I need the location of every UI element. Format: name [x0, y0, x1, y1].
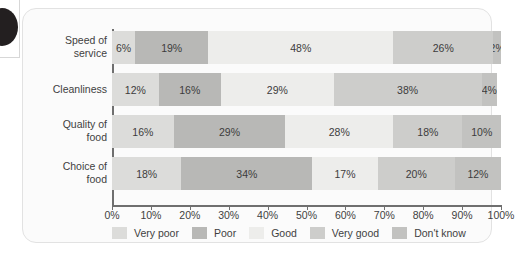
category-label-line: food [41, 131, 107, 144]
legend-item[interactable]: Very poor [112, 227, 179, 239]
bar-segment-label: 20% [406, 168, 427, 180]
bar-segment[interactable]: 48% [208, 31, 393, 64]
bar-segment-label: 29% [267, 84, 288, 96]
bar-segment-label: 4% [482, 84, 497, 96]
category-label-line: Cleanliness [41, 83, 107, 96]
category-label: Speed ofservice [41, 34, 107, 59]
bar-segment[interactable]: 17% [312, 157, 377, 190]
bar-segment[interactable]: 29% [174, 115, 286, 148]
legend-label: Very poor [134, 227, 179, 239]
bar-segment[interactable]: 28% [285, 115, 393, 148]
bar-segment-label: 12% [125, 84, 146, 96]
bar-segment-label: 16% [179, 84, 200, 96]
x-axis-tick-label: 80% [413, 209, 434, 221]
x-axis-tick-label: 70% [374, 209, 395, 221]
bar-segment-label: 2% [493, 42, 501, 54]
bar-segment-label: 29% [219, 126, 240, 138]
bar-segment[interactable]: 4% [482, 73, 498, 106]
bar-segment[interactable]: 38% [334, 73, 482, 106]
bar-segment[interactable]: 12% [112, 73, 159, 106]
bar-row: 18%34%17%20%12% [112, 157, 501, 190]
x-axis-tick-label: 50% [296, 209, 317, 221]
bar-segment-label: 38% [397, 84, 418, 96]
bar-segment[interactable]: 16% [159, 73, 221, 106]
chart-legend: Very poorPoorGoodVery goodDon't know [112, 227, 479, 239]
bar-segment[interactable]: 19% [135, 31, 208, 64]
bar-segment-label: 10% [471, 126, 492, 138]
bar-segment[interactable]: 26% [393, 31, 493, 64]
bar-segment-label: 26% [433, 42, 454, 54]
x-axis-tick-label: 10% [140, 209, 161, 221]
legend-label: Don't know [414, 227, 466, 239]
bar-segment-label: 18% [417, 126, 438, 138]
bar-segment[interactable]: 20% [378, 157, 455, 190]
bar-segment-label: 18% [136, 168, 157, 180]
legend-swatch [310, 227, 325, 239]
bar-segment-label: 34% [236, 168, 257, 180]
bar-segment[interactable]: 29% [221, 73, 334, 106]
legend-swatch [249, 227, 264, 239]
bar-segment-label: 16% [132, 126, 153, 138]
category-label-line: food [41, 173, 107, 186]
chart-card: Speed ofserviceCleanlinessQuality offood… [22, 8, 492, 243]
category-label-line: Quality of [41, 118, 107, 131]
legend-item[interactable]: Don't know [392, 227, 466, 239]
x-axis-tick-label: 40% [257, 209, 278, 221]
bar-segment-label: 19% [161, 42, 182, 54]
x-axis-tick-label: 90% [452, 209, 473, 221]
legend-item[interactable]: Very good [310, 227, 379, 239]
x-axis-tick-label: 60% [335, 209, 356, 221]
bar-segment-label: 28% [329, 126, 350, 138]
legend-label: Good [271, 227, 297, 239]
x-axis-tick-label: 20% [179, 209, 200, 221]
category-label-line: service [41, 47, 107, 60]
legend-item[interactable]: Poor [192, 227, 236, 239]
bar-segment[interactable]: 2% [493, 31, 501, 64]
category-label-line: Choice of [41, 160, 107, 173]
x-axis-tick-label: 30% [218, 209, 239, 221]
legend-swatch [192, 227, 207, 239]
bar-segment[interactable]: 12% [455, 157, 501, 190]
bar-segment[interactable]: 16% [112, 115, 174, 148]
x-axis-tick-label: 100% [488, 209, 515, 221]
legend-label: Very good [332, 227, 379, 239]
bar-segment-label: 17% [335, 168, 356, 180]
category-label-line: Speed of [41, 34, 107, 47]
category-label: Quality offood [41, 118, 107, 143]
category-label: Cleanliness [41, 83, 107, 96]
bar-row: 16%29%28%18%10% [112, 115, 501, 148]
bar-segment[interactable]: 18% [393, 115, 462, 148]
x-axis-tick-label: 0% [104, 209, 119, 221]
legend-label: Poor [214, 227, 236, 239]
bar-segment-label: 6% [116, 42, 131, 54]
bar-segment-label: 12% [467, 168, 488, 180]
bar-segment-label: 48% [290, 42, 311, 54]
legend-item[interactable]: Good [249, 227, 297, 239]
bar-segment[interactable]: 34% [181, 157, 312, 190]
bar-segment[interactable]: 10% [462, 115, 501, 148]
legend-swatch [112, 227, 127, 239]
bar-segment[interactable]: 18% [112, 157, 181, 190]
legend-swatch [392, 227, 407, 239]
bar-segment[interactable]: 6% [112, 31, 135, 64]
bar-row: 6%19%48%26%2% [112, 31, 501, 64]
category-label: Choice offood [41, 160, 107, 185]
bar-row: 12%16%29%38%4% [112, 73, 501, 106]
